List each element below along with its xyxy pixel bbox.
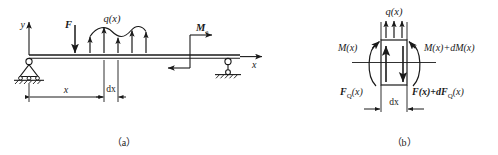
moment-label-group: Me bbox=[195, 22, 208, 36]
shear-left-label-group: FQ(x) bbox=[339, 86, 364, 100]
point-load-F: F bbox=[64, 19, 75, 53]
dimension-dx-label: dx bbox=[106, 84, 116, 94]
x-axis: x bbox=[240, 57, 262, 70]
dimension-x-dx: x dx bbox=[29, 60, 126, 102]
shear-left-label-tail: (x) bbox=[352, 86, 364, 98]
right-roller-support bbox=[215, 58, 241, 78]
panel-b-group: q(x) M(x) M(x)+dM(x) FQ(x) F(x)+dFQ(x) bbox=[337, 6, 475, 148]
element-distributed-load-q: q(x) bbox=[386, 6, 403, 38]
couple-moment-Me: Me bbox=[168, 22, 212, 68]
moment-left-arc bbox=[369, 42, 379, 87]
figure-canvas: y x bbox=[0, 0, 498, 155]
distributed-load-label: q(x) bbox=[104, 13, 121, 25]
shear-right-label-base: F(x)+dF bbox=[411, 86, 448, 98]
beam-bending-figure: y x bbox=[0, 0, 498, 155]
moment-left-label: M(x) bbox=[337, 42, 358, 54]
shear-right-label-group: F(x)+dFQ(x) bbox=[411, 86, 465, 100]
moment-label-subscript: e bbox=[205, 28, 208, 36]
shear-right-label-tail: (x) bbox=[453, 86, 465, 98]
element-dimension-dx-label: dx bbox=[389, 97, 399, 107]
point-load-label: F bbox=[64, 19, 72, 30]
beam-member bbox=[29, 55, 240, 58]
element-dimension-dx: dx bbox=[364, 97, 424, 109]
left-pin-support bbox=[14, 58, 44, 84]
panel-a-group: y x bbox=[14, 13, 262, 148]
moment-right-arc bbox=[409, 42, 420, 87]
moment-right-label: M(x)+dM(x) bbox=[423, 42, 475, 54]
distributed-load-q: q(x) bbox=[90, 13, 146, 53]
y-axis: y bbox=[20, 19, 30, 55]
caption-b: （b） bbox=[392, 137, 417, 148]
moment-label-base: M bbox=[195, 22, 206, 33]
dimension-x-label: x bbox=[63, 84, 69, 95]
x-axis-label: x bbox=[251, 59, 257, 70]
y-axis-label: y bbox=[20, 19, 26, 30]
element-distributed-load-label: q(x) bbox=[386, 6, 403, 18]
caption-a: （a） bbox=[112, 137, 136, 148]
